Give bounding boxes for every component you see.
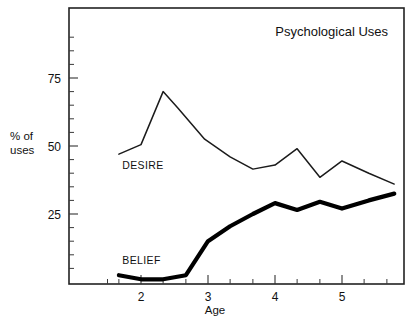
series-label-desire: DESIRE bbox=[122, 159, 163, 171]
chart-title: Psychological Uses bbox=[275, 24, 388, 39]
chart-svg: 255075 2345 Psychological Uses % of uses… bbox=[0, 0, 417, 324]
y-tick-label: 75 bbox=[48, 72, 62, 86]
x-tick-label: 4 bbox=[272, 290, 279, 304]
x-tick-label: 2 bbox=[138, 290, 145, 304]
y-axis-label-line2: uses bbox=[10, 144, 35, 156]
x-tick-label: 3 bbox=[205, 290, 212, 304]
y-axis-label-line1: % of bbox=[10, 130, 34, 142]
series-label-belief: BELIEF bbox=[122, 254, 161, 266]
chart-figure: 255075 2345 Psychological Uses % of uses… bbox=[0, 0, 417, 324]
y-tick-label: 50 bbox=[48, 140, 62, 154]
x-axis-label: Age bbox=[205, 304, 225, 316]
y-tick-label: 25 bbox=[48, 208, 62, 222]
x-tick-label: 5 bbox=[339, 290, 346, 304]
